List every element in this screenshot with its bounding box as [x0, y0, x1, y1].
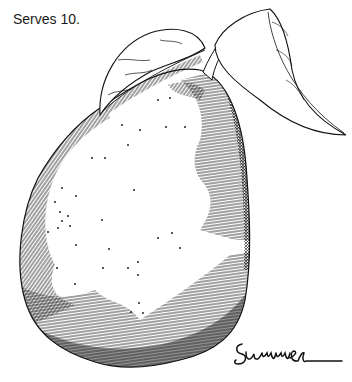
pear-illustration	[0, 0, 352, 382]
artist-signature: Summer	[232, 336, 347, 376]
pear-body	[10, 60, 260, 382]
